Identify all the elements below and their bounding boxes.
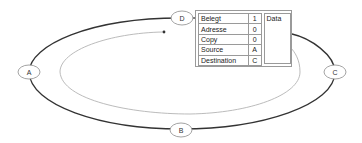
node-d[interactable]: D xyxy=(171,11,193,25)
field-row-copy: Copy 0 xyxy=(199,34,262,44)
field-label: Destination xyxy=(199,55,249,65)
packet-header-table: Belegt 1 Adresse 0 Copy 0 Source A Desti… xyxy=(198,13,262,66)
node-c[interactable]: C xyxy=(324,65,346,79)
node-b[interactable]: B xyxy=(170,123,192,137)
ring-diagram: D A B C xyxy=(0,0,362,143)
field-value: C xyxy=(248,55,261,65)
packet-data-cell: Data xyxy=(264,13,291,64)
svg-text:C: C xyxy=(332,69,337,76)
field-label: Copy xyxy=(199,34,249,44)
field-value: 0 xyxy=(248,34,261,44)
field-value: 1 xyxy=(248,14,261,24)
field-label: Adresse xyxy=(199,24,249,34)
svg-text:D: D xyxy=(179,15,184,22)
field-label: Belegt xyxy=(199,14,249,24)
field-row-belegt: Belegt 1 xyxy=(199,14,262,24)
field-row-adresse: Adresse 0 xyxy=(199,24,262,34)
packet-frame: Belegt 1 Adresse 0 Copy 0 Source A Desti… xyxy=(195,10,292,67)
field-value: A xyxy=(248,45,261,55)
node-a[interactable]: A xyxy=(18,65,40,79)
svg-text:A: A xyxy=(27,69,32,76)
field-row-source: Source A xyxy=(199,45,262,55)
svg-text:B: B xyxy=(179,127,184,134)
path-start-marker xyxy=(163,31,166,34)
field-row-destination: Destination C xyxy=(199,55,262,65)
field-value: 0 xyxy=(248,24,261,34)
field-label: Source xyxy=(199,45,249,55)
